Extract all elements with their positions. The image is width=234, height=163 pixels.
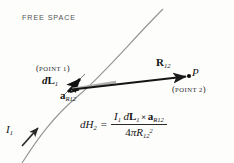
formula-numerator: I1dL1×aR12 xyxy=(111,110,167,124)
point-p-label: P xyxy=(192,67,199,78)
biot-savart-figure: FREE SPACE (POINT 1) dL1 aR12 R12 P (POI… xyxy=(0,0,234,163)
point-1-label: (POINT 1) xyxy=(36,64,70,73)
formula-fraction: I1dL1×aR12 4πR122 xyxy=(111,110,167,139)
point-1-close-paren: ) xyxy=(67,63,70,73)
a-r12-label: aR12 xyxy=(60,90,76,102)
formula-lhs-subscript: 2 xyxy=(93,124,96,131)
formula-num-I-subscript: 1 xyxy=(118,116,121,123)
point-2-text: POINT 2 xyxy=(175,86,203,93)
point-1-text: POINT 1 xyxy=(39,65,67,72)
r12-vector-arrow xyxy=(72,77,186,90)
point-2-close-paren: ) xyxy=(203,84,206,94)
formula-num-a-subscript: R12 xyxy=(153,116,164,123)
formula-den-R-exponent: 2 xyxy=(149,127,152,134)
dl1-label: dL1 xyxy=(42,75,58,87)
point-2-label: (POINT 2) xyxy=(172,85,206,94)
dl1-L: L xyxy=(48,74,55,86)
r12-label: R12 xyxy=(156,57,171,69)
free-space-label: FREE SPACE xyxy=(22,14,76,21)
biot-savart-formula: dH2 = I1dL1×aR12 4πR122 xyxy=(80,110,167,139)
formula-equals: = xyxy=(101,118,107,130)
formula-lhs: dH2 xyxy=(80,118,97,131)
formula-den-R: R xyxy=(136,126,143,138)
dl1-subscript: 1 xyxy=(55,80,58,87)
current-subscript: 1 xyxy=(10,129,13,136)
a-r12-subscript: R12 xyxy=(66,95,77,102)
formula-cross-product-symbol: × xyxy=(140,112,148,122)
point-p-dot xyxy=(187,74,191,78)
r12-R: R xyxy=(156,56,164,68)
current-label: I1 xyxy=(6,124,13,136)
r12-subscript: 12 xyxy=(164,62,171,69)
formula-denominator: 4πR122 xyxy=(122,125,156,139)
